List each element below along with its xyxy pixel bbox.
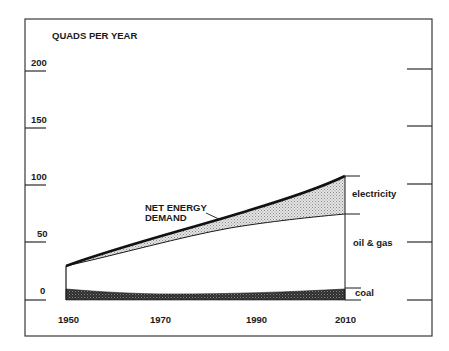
- x-tick-2010: 2010: [335, 314, 356, 325]
- net-energy-demand-line: [66, 176, 345, 266]
- y-tick-200: 200: [31, 57, 47, 68]
- annotation-net-energy-line2: DEMAND: [145, 212, 187, 223]
- x-tick-1950: 1950: [58, 314, 79, 325]
- chart-svg: QUADS PER YEAR 200 150 100 50 0 NET ENER…: [0, 0, 449, 351]
- x-tick-1970: 1970: [150, 314, 171, 325]
- label-coal: coal: [355, 287, 374, 298]
- right-ticks: [407, 69, 432, 300]
- left-ticks: [25, 71, 46, 300]
- coal-area: [66, 289, 345, 300]
- annotation-leader-line: [206, 213, 221, 220]
- label-electricity: electricity: [352, 188, 397, 199]
- y-axis-title: QUADS PER YEAR: [52, 30, 137, 41]
- x-tick-1990: 1990: [246, 314, 267, 325]
- y-tick-0: 0: [40, 285, 45, 296]
- y-tick-50: 50: [37, 228, 48, 239]
- label-oil-gas: oil & gas: [353, 237, 393, 248]
- y-tick-150: 150: [31, 114, 47, 125]
- y-tick-100: 100: [31, 171, 47, 182]
